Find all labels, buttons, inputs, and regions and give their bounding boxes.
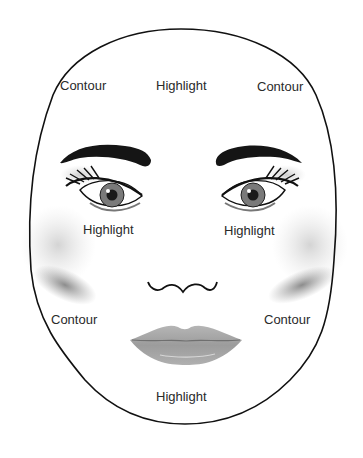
label-highlight-under-eye-right: Highlight — [224, 224, 275, 237]
label-contour-jaw-right: Contour — [264, 313, 310, 326]
face-contour-diagram: Contour Highlight Contour Highlight High… — [0, 0, 363, 458]
label-contour-forehead-right: Contour — [257, 80, 303, 93]
eyebrow-left — [60, 145, 151, 167]
nose — [148, 282, 217, 292]
label-contour-jaw-left: Contour — [51, 313, 97, 326]
eyebrow-right — [216, 146, 302, 167]
lips — [130, 326, 242, 365]
label-highlight-under-eye-left: Highlight — [83, 223, 134, 236]
label-highlight-forehead: Highlight — [156, 79, 207, 92]
label-highlight-chin: Highlight — [156, 390, 207, 403]
label-contour-forehead-left: Contour — [60, 79, 106, 92]
